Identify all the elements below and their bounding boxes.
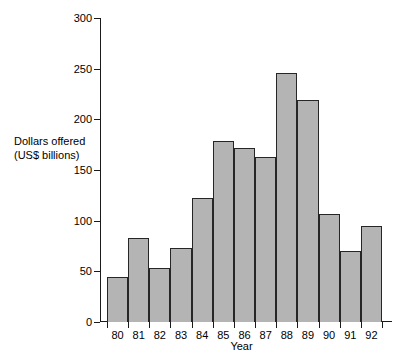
bar-chart: Dollars offered (US$ billions) 050100150… bbox=[0, 0, 417, 364]
y-tick-label: 250 bbox=[52, 64, 92, 75]
bar bbox=[319, 214, 340, 322]
bar bbox=[297, 100, 318, 322]
x-tick-mark bbox=[361, 322, 362, 328]
y-tick-mark bbox=[94, 221, 100, 222]
x-tick-mark bbox=[276, 322, 277, 328]
bar bbox=[149, 268, 170, 322]
y-tick-label: 100 bbox=[52, 216, 92, 227]
y-axis-line bbox=[100, 18, 101, 322]
plot-area: 050100150200250300 808182838485868788899… bbox=[100, 18, 392, 322]
x-tick-mark bbox=[192, 322, 193, 328]
x-tick-mark bbox=[382, 322, 383, 328]
y-tick-mark bbox=[94, 322, 100, 323]
x-tick-mark bbox=[170, 322, 171, 328]
y-tick-mark bbox=[94, 271, 100, 272]
x-tick-mark bbox=[319, 322, 320, 328]
bar bbox=[192, 198, 213, 322]
y-tick-mark bbox=[94, 69, 100, 70]
y-tick-label: 200 bbox=[52, 114, 92, 125]
x-tick-mark bbox=[255, 322, 256, 328]
y-tick-label: 0 bbox=[52, 317, 92, 328]
bar bbox=[107, 277, 128, 322]
x-axis-title: Year bbox=[0, 340, 417, 352]
x-tick-mark bbox=[149, 322, 150, 328]
bar bbox=[255, 157, 276, 322]
x-tick-mark bbox=[213, 322, 214, 328]
x-axis-title-text: Year bbox=[230, 340, 252, 352]
x-tick-mark bbox=[234, 322, 235, 328]
y-tick-mark bbox=[94, 18, 100, 19]
x-tick-mark bbox=[128, 322, 129, 328]
x-tick-mark bbox=[297, 322, 298, 328]
y-tick-label: 150 bbox=[52, 165, 92, 176]
y-tick-mark bbox=[94, 119, 100, 120]
bar bbox=[170, 248, 191, 322]
x-tick-mark bbox=[340, 322, 341, 328]
y-tick-label: 50 bbox=[52, 266, 92, 277]
bar bbox=[213, 141, 234, 322]
bar bbox=[276, 73, 297, 322]
bar bbox=[234, 148, 255, 322]
y-tick-mark bbox=[94, 170, 100, 171]
bar bbox=[361, 226, 382, 322]
y-tick-label: 300 bbox=[52, 13, 92, 24]
bar bbox=[340, 251, 361, 322]
y-tick-label-group: 050100150200250300 bbox=[48, 18, 92, 322]
bar bbox=[128, 238, 149, 322]
x-tick-mark bbox=[107, 322, 108, 328]
